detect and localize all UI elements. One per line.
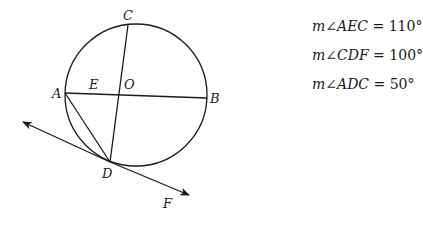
label-c: C xyxy=(123,8,133,23)
geometry-figure: A B C D E O F xyxy=(0,0,260,227)
given-angle-adc: m∠ADC = 50° xyxy=(312,70,423,99)
label-e: E xyxy=(88,77,99,92)
tangent-line-df xyxy=(110,162,189,195)
label-b: B xyxy=(209,91,220,106)
label-f: F xyxy=(162,196,173,211)
label-d: D xyxy=(101,166,113,181)
label-o: O xyxy=(124,77,135,92)
given-angle-cdf: m∠CDF = 100° xyxy=(312,41,423,70)
label-a: A xyxy=(51,86,61,101)
chord-cd xyxy=(110,25,128,162)
chord-ab xyxy=(65,93,207,98)
given-measures: m∠AEC = 110° m∠CDF = 100° m∠ADC = 50° xyxy=(312,12,423,99)
given-angle-aec: m∠AEC = 110° xyxy=(312,12,423,41)
